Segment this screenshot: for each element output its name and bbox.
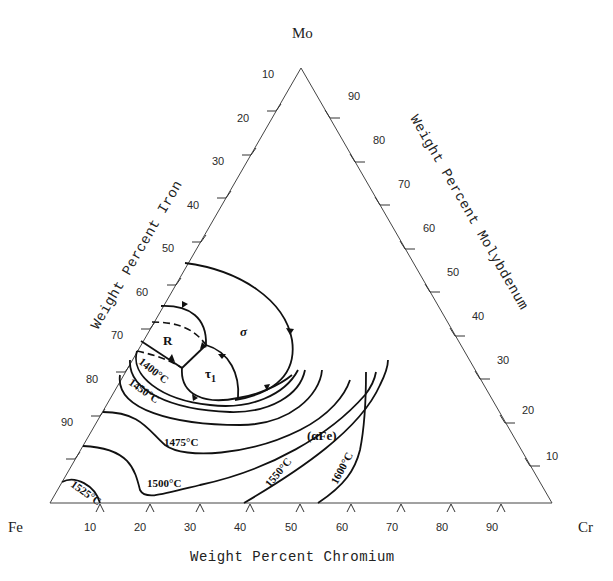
phase-label-R: R [163, 333, 173, 348]
svg-text:90: 90 [486, 521, 498, 533]
svg-text:70: 70 [111, 329, 123, 341]
svg-text:50: 50 [162, 242, 174, 254]
phase-label-sigma: σ [240, 324, 248, 339]
r-dashed-upper [152, 322, 206, 345]
svg-text:30: 30 [184, 521, 196, 533]
isotherm-label-1500: 1500°C [147, 477, 181, 489]
phase-label-tau1: τ1 [205, 366, 216, 384]
left-axis-ticks [66, 104, 281, 459]
svg-text:70: 70 [398, 178, 410, 190]
svg-text:10: 10 [262, 68, 274, 80]
left-axis-title: Weight Percent Iron [88, 178, 186, 332]
svg-text:30: 30 [497, 354, 509, 366]
vertex-fe-label: Fe [8, 519, 23, 535]
svg-text:10: 10 [84, 521, 96, 533]
svg-text:80: 80 [436, 521, 448, 533]
svg-text:90: 90 [61, 416, 73, 428]
bottom-axis-tick-labels: 10 20 30 40 50 60 70 80 90 [84, 521, 498, 533]
r-tau1-boundary [182, 345, 206, 368]
svg-text:70: 70 [386, 521, 398, 533]
svg-text:50: 50 [447, 266, 459, 278]
svg-text:50: 50 [285, 521, 297, 533]
svg-text:60: 60 [423, 222, 435, 234]
vertex-cr-label: Cr [578, 519, 593, 535]
svg-text:40: 40 [234, 521, 246, 533]
svg-text:90: 90 [348, 90, 360, 102]
isotherm-label-1600: 1600°C [328, 450, 355, 486]
bottom-axis-title: Weight Percent Chromium [190, 549, 395, 565]
svg-text:10: 10 [546, 450, 558, 462]
svg-text:40: 40 [472, 310, 484, 322]
phase-label-alphaFe: (αFe) [307, 428, 337, 443]
svg-text:80: 80 [86, 373, 98, 385]
isotherm-label-1475: 1475°C [164, 436, 198, 448]
right-axis-tick-labels: 90 80 70 60 50 40 30 20 10 [348, 90, 558, 462]
vertex-mo-label: Mo [292, 25, 313, 41]
svg-text:60: 60 [336, 521, 348, 533]
svg-text:80: 80 [373, 134, 385, 146]
svg-text:30: 30 [212, 155, 224, 167]
svg-text:40: 40 [187, 199, 199, 211]
svg-text:60: 60 [136, 286, 148, 298]
sigma-outer-boundary [185, 263, 293, 400]
bottom-axis-ticks [96, 504, 505, 512]
svg-text:20: 20 [237, 112, 249, 124]
svg-text:20: 20 [522, 404, 534, 416]
svg-text:20: 20 [134, 521, 146, 533]
isotherm-label-1550: 1550°C [262, 455, 293, 489]
ternary-diagram: Mo Fe Cr 10 20 30 40 50 60 70 80 90 9 [0, 0, 613, 581]
